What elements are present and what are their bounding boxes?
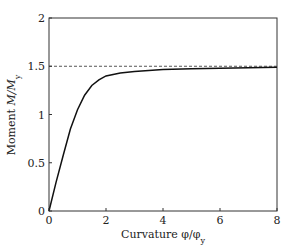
y-tick-label: 0.5: [28, 157, 46, 170]
y-tick-label: 0: [38, 205, 45, 218]
plot-frame: [49, 18, 277, 211]
y-tick-label: 1: [38, 109, 45, 122]
x-axis-label: Curvature φ/φy: [121, 228, 205, 245]
x-tick-label: 4: [160, 214, 167, 227]
x-tick-label: 6: [217, 214, 224, 227]
y-axis-ticks: 00.511.52: [28, 12, 53, 218]
y-tick-label: 1.5: [28, 60, 46, 73]
x-tick-label: 2: [103, 214, 110, 227]
x-tick-label: 8: [274, 214, 281, 227]
y-tick-label: 2: [38, 12, 45, 25]
moment-curvature-curve: [49, 67, 277, 211]
y-axis-label: Moment M/My: [5, 74, 22, 155]
x-tick-label: 0: [46, 214, 53, 227]
moment-curvature-chart: 02468 00.511.52 Curvature φ/φy Moment M/…: [0, 0, 294, 252]
